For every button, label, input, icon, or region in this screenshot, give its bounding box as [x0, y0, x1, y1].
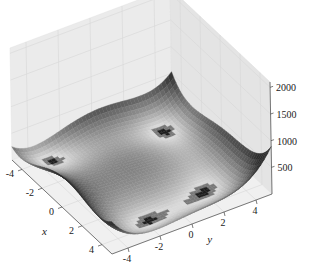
y-axis-label: y — [206, 233, 212, 245]
z-axis-ticks: 500100015002000 — [270, 82, 297, 173]
x-axis-label: x — [41, 225, 47, 237]
y-tick-label: -2 — [155, 241, 163, 252]
x-tick-label: -4 — [6, 168, 14, 179]
z-tick-label: 2000 — [276, 82, 296, 93]
x-tick-label: -2 — [26, 187, 34, 198]
z-tick-label: 1500 — [277, 109, 297, 120]
x-tick-label: 0 — [49, 206, 54, 217]
surface-plot-3d: -4-2024 -4-2024 500100015002000 x y — [0, 0, 320, 271]
y-tick-label: 4 — [253, 205, 258, 216]
z-tick-label: 1000 — [277, 136, 297, 147]
y-tick-label: 0 — [189, 229, 194, 240]
y-tick-label: -4 — [123, 253, 131, 264]
z-tick-label: 500 — [278, 162, 293, 173]
x-tick-label: 4 — [89, 244, 94, 255]
y-tick-label: 2 — [221, 217, 226, 228]
x-tick-label: 2 — [69, 225, 74, 236]
